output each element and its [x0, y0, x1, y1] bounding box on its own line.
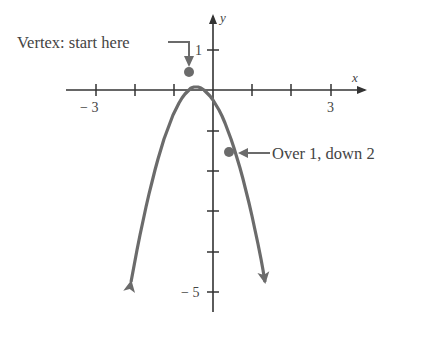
- vertex-arrowhead-icon: [184, 56, 194, 67]
- x-tick-label-neg3: − 3: [80, 100, 98, 115]
- step-annotation: Over 1, down 2: [272, 144, 375, 163]
- parabola-diagram: x y − 3 3 1 − 5 Vertex: start here Over …: [0, 0, 421, 342]
- x-axis-label: x: [351, 70, 358, 85]
- step-point: [224, 147, 234, 157]
- y-tick-label-neg5: − 5: [181, 285, 199, 300]
- parabola-curve: [131, 87, 265, 282]
- x-tick-label-pos3: 3: [327, 100, 334, 115]
- y-axis-label: y: [218, 10, 226, 25]
- step-arrowhead-icon: [238, 148, 248, 158]
- vertex-annotation: Vertex: start here: [17, 33, 130, 52]
- vertex-point: [184, 67, 194, 77]
- parabola-curve: [130, 15, 255, 282]
- y-tick-label-pos1: 1: [195, 43, 202, 58]
